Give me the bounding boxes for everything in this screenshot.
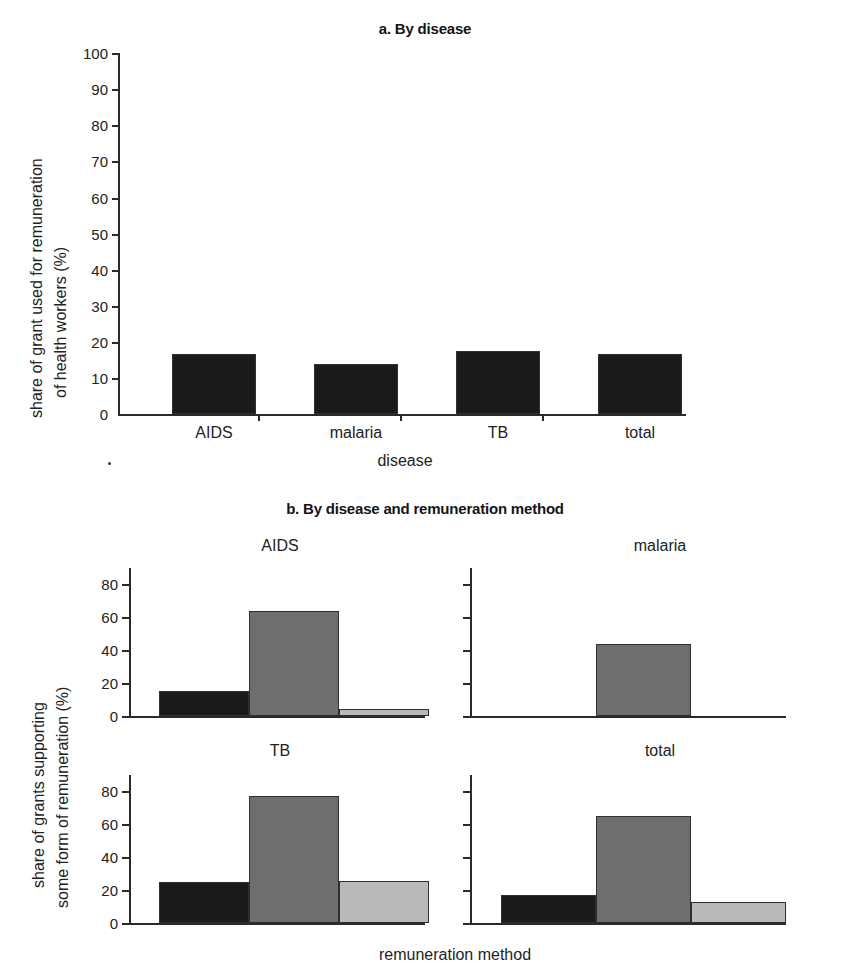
panel-b-tickmark	[463, 791, 470, 793]
panel-a-ytick-40: 40	[60, 262, 108, 279]
panel-b-tickmark	[122, 890, 129, 892]
bar-total-method-2[interactable]	[596, 816, 691, 923]
panel-b-top-ytick-40: 40	[78, 642, 118, 659]
panel-b-bot-ytick-60: 60	[78, 816, 118, 833]
bar-total-method-3[interactable]	[691, 902, 786, 923]
panel-b-top-ytick-80: 80	[78, 576, 118, 593]
bar-malaria[interactable]	[314, 364, 398, 415]
stray-mark	[108, 462, 111, 465]
panel-b-title: b. By disease and remuneration method	[175, 500, 675, 517]
subplot-total-x-axis	[470, 923, 786, 925]
panel-b-tickmark	[463, 716, 470, 718]
panel-a-ytick-100: 100	[60, 45, 108, 62]
panel-a-ytick-90: 90	[60, 81, 108, 98]
panel-a-ytick-70: 70	[60, 153, 108, 170]
panel-b-bot-ytick-20: 20	[78, 882, 118, 899]
panel-a-ytick-60: 60	[60, 190, 108, 207]
panel-b-tickmark	[122, 716, 129, 718]
subplot-aids-x-axis	[129, 716, 425, 718]
panel-b-tickmark	[122, 683, 129, 685]
panel-a-x-tickmark	[400, 414, 402, 421]
panel-b-tickmark	[122, 584, 129, 586]
panel-a-ytick-0: 0	[60, 406, 108, 423]
subpanel-title-total: total	[560, 742, 760, 760]
panel-a-xtick-tb: TB	[488, 424, 508, 442]
panel-b-tickmark	[463, 617, 470, 619]
subpanel-title-malaria: malaria	[560, 537, 760, 555]
panel-a-ytick-30: 30	[60, 298, 108, 315]
subplot-total-plot-area	[471, 775, 786, 923]
panel-a-x-tickmark	[258, 414, 260, 421]
subplot-tb-plot-area	[130, 775, 425, 923]
panel-a-title: a. By disease	[235, 20, 615, 37]
panel-a-ylabel-line1: share of grant used for remuneration	[28, 158, 46, 418]
bar-tb-method-2[interactable]	[249, 796, 339, 923]
panel-b-ylabel-line2: some form of remuneration (%)	[54, 687, 72, 908]
panel-b-ylabel-line1: share of grants supporting	[30, 702, 48, 888]
bar-aids[interactable]	[172, 354, 256, 414]
panel-b-tickmark	[463, 650, 470, 652]
panel-b-tickmark	[463, 890, 470, 892]
panel-b-tickmark	[122, 791, 129, 793]
subplot-aids-plot-area	[130, 568, 425, 716]
bar-aids-method-3[interactable]	[339, 709, 429, 716]
panel-b-tickmark	[122, 824, 129, 826]
panel-a-x-tickmark	[542, 414, 544, 421]
panel-a-xtick-total: total	[625, 424, 655, 442]
panel-b-bot-ytick-40: 40	[78, 849, 118, 866]
panel-b-bot-ytick-0: 0	[78, 915, 118, 932]
panel-b-bot-ytick-80: 80	[78, 783, 118, 800]
subpanel-title-tb: TB	[180, 742, 380, 760]
panel-b-tickmark	[463, 857, 470, 859]
bar-tb[interactable]	[456, 351, 540, 414]
bar-aids-method-2[interactable]	[249, 611, 339, 716]
panel-b-tickmark	[463, 584, 470, 586]
panel-a-ytick-10: 10	[60, 370, 108, 387]
subplot-tb-x-axis	[129, 923, 425, 925]
panel-a-xtick-aids: AIDS	[195, 424, 232, 442]
panel-b-tickmark	[122, 617, 129, 619]
panel-b-tickmark	[122, 650, 129, 652]
panel-b-tickmark	[463, 923, 470, 925]
bar-malaria-method-2[interactable]	[596, 644, 691, 716]
subpanel-title-aids: AIDS	[180, 537, 380, 555]
panel-b-tickmark	[463, 824, 470, 826]
panel-b-tickmark	[463, 683, 470, 685]
subplot-malaria-plot-area	[471, 568, 786, 716]
figure-root: a. By disease share of grant used for re…	[0, 0, 850, 974]
bar-total-method-1[interactable]	[501, 895, 596, 923]
bar-total[interactable]	[598, 354, 682, 414]
subplot-malaria-x-axis	[470, 716, 786, 718]
panel-a-ytick-50: 50	[60, 226, 108, 243]
panel-b-top-ytick-60: 60	[78, 609, 118, 626]
panel-a-ytick-80: 80	[60, 117, 108, 134]
panel-a-plot-area	[118, 53, 686, 414]
bar-aids-method-1[interactable]	[159, 691, 249, 716]
panel-a-xlabel: disease	[305, 452, 505, 470]
bar-tb-method-1[interactable]	[159, 882, 249, 923]
panel-b-top-ytick-20: 20	[78, 675, 118, 692]
panel-a-ytick-20: 20	[60, 334, 108, 351]
panel-b-top-ytick-0: 0	[78, 708, 118, 725]
panel-a-x-axis	[118, 414, 686, 416]
panel-b-tickmark	[122, 923, 129, 925]
panel-b-tickmark	[122, 857, 129, 859]
panel-a-xtick-malaria: malaria	[330, 424, 382, 442]
panel-b-xlabel: remuneration method	[325, 946, 585, 964]
bar-tb-method-3[interactable]	[339, 881, 429, 923]
